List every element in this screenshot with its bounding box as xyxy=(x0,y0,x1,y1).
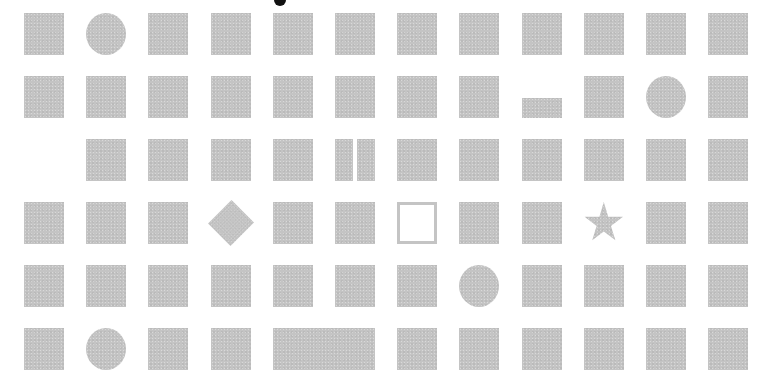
grid-cell-square xyxy=(24,328,64,370)
square-shape xyxy=(584,139,624,181)
square-shape xyxy=(273,202,313,244)
square-shape xyxy=(522,139,562,181)
grid-cell-square xyxy=(148,202,188,244)
square-shape xyxy=(211,13,251,55)
grid-cell-square xyxy=(335,265,375,307)
split-right-shape xyxy=(357,139,375,181)
grid-cell-square xyxy=(708,202,748,244)
grid-cell-square xyxy=(459,328,499,370)
grid-cell-square xyxy=(522,139,562,181)
grid-cell-square xyxy=(273,202,313,244)
square-shape xyxy=(646,202,686,244)
square-shape xyxy=(211,265,251,307)
square-shape xyxy=(86,139,126,181)
grid-cell-square xyxy=(148,328,188,370)
square-shape xyxy=(397,76,437,118)
grid-cell-square xyxy=(273,265,313,307)
grid-cell-circle xyxy=(86,328,126,370)
grid-cell-square xyxy=(708,13,748,55)
shape-grid xyxy=(0,0,764,389)
grid-cell-square xyxy=(584,328,624,370)
circle-shape xyxy=(86,13,126,55)
square-shape xyxy=(646,13,686,55)
grid-cell-square xyxy=(86,202,126,244)
grid-cell-square xyxy=(273,76,313,118)
grid-cell-square xyxy=(584,265,624,307)
square-shape xyxy=(397,139,437,181)
square-shape xyxy=(211,76,251,118)
square-shape xyxy=(646,139,686,181)
grid-cell-split xyxy=(335,139,375,181)
grid-cell-wide-bar xyxy=(273,328,313,370)
square-shape xyxy=(335,265,375,307)
grid-cell-square xyxy=(459,76,499,118)
square-shape xyxy=(584,13,624,55)
grid-cell-square xyxy=(148,265,188,307)
grid-cell-square xyxy=(646,139,686,181)
grid-cell-square xyxy=(522,202,562,244)
square-shape xyxy=(86,265,126,307)
grid-cell-square xyxy=(459,13,499,55)
square-shape xyxy=(459,328,499,370)
square-shape xyxy=(708,328,748,370)
grid-cell-square xyxy=(397,13,437,55)
grid-cell-square xyxy=(211,328,251,370)
grid-cell-square xyxy=(24,202,64,244)
grid-cell-square xyxy=(397,328,437,370)
grid-cell-square xyxy=(522,328,562,370)
square-shape xyxy=(148,202,188,244)
grid-cell-star xyxy=(584,202,624,244)
square-shape xyxy=(24,76,64,118)
square-shape xyxy=(584,76,624,118)
circle-shape xyxy=(459,265,499,307)
square-shape xyxy=(646,265,686,307)
grid-cell-square xyxy=(86,139,126,181)
square-shape xyxy=(459,202,499,244)
grid-cell-square xyxy=(86,76,126,118)
square-shape xyxy=(24,13,64,55)
grid-cell-square xyxy=(708,265,748,307)
grid-cell-circle xyxy=(646,76,686,118)
square-shape xyxy=(459,76,499,118)
square-shape xyxy=(708,139,748,181)
square-shape xyxy=(273,13,313,55)
grid-cell-diamond xyxy=(211,202,251,244)
square-shape xyxy=(522,202,562,244)
square-shape xyxy=(86,202,126,244)
square-shape xyxy=(86,76,126,118)
grid-cell-square xyxy=(584,76,624,118)
square-shape xyxy=(708,202,748,244)
grid-cell-square xyxy=(211,13,251,55)
square-shape xyxy=(708,265,748,307)
grid-cell-square xyxy=(148,76,188,118)
square-shape xyxy=(459,13,499,55)
grid-cell-square xyxy=(459,202,499,244)
grid-cell-square xyxy=(397,265,437,307)
square-shape xyxy=(24,202,64,244)
grid-cell-square xyxy=(335,76,375,118)
grid-cell-square xyxy=(584,139,624,181)
grid-cell-outline-square xyxy=(397,202,437,244)
grid-cell-square xyxy=(211,265,251,307)
star-shape xyxy=(584,202,624,244)
grid-cell-square xyxy=(708,76,748,118)
grid-cell-square xyxy=(522,265,562,307)
grid-cell-circle xyxy=(86,13,126,55)
square-shape xyxy=(335,13,375,55)
short-bar-shape xyxy=(522,98,562,118)
square-shape xyxy=(211,328,251,370)
square-shape xyxy=(148,76,188,118)
grid-cell-square xyxy=(148,13,188,55)
square-shape xyxy=(522,328,562,370)
square-shape xyxy=(335,202,375,244)
square-shape xyxy=(522,13,562,55)
square-shape xyxy=(708,13,748,55)
square-shape xyxy=(148,13,188,55)
grid-cell-square xyxy=(397,139,437,181)
grid-cell-square xyxy=(708,139,748,181)
grid-cell-square xyxy=(24,13,64,55)
square-shape xyxy=(397,13,437,55)
grid-cell-square xyxy=(646,13,686,55)
square-shape xyxy=(24,328,64,370)
square-shape xyxy=(148,328,188,370)
